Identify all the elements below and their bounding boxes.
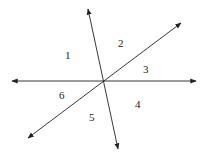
angle-label-2: 2 (118, 37, 124, 49)
angle-label-4: 4 (135, 98, 141, 110)
angle-label-3: 3 (143, 63, 149, 75)
angle-label-1: 1 (65, 49, 71, 61)
angle-label-6: 6 (59, 89, 65, 101)
steep-line (88, 9, 118, 149)
diagonal-line (28, 23, 181, 138)
intersecting-lines-diagram: 1 2 3 4 5 6 (0, 0, 203, 159)
angle-label-5: 5 (89, 111, 95, 123)
